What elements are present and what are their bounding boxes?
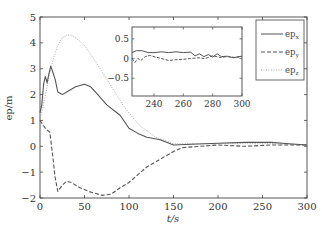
x-tick-label: 200 <box>208 201 227 212</box>
y-tick-label: −2 <box>21 193 36 204</box>
y-tick-label: 3 <box>30 63 36 74</box>
inset-y-tick-label: 0.5 <box>115 34 130 44</box>
inset-x-tick-label: 260 <box>175 99 192 109</box>
y-tick-label: 5 <box>30 12 36 23</box>
x-tick-label: 100 <box>119 201 138 212</box>
x-tick-label: 250 <box>253 201 272 212</box>
inset-axes-frame <box>132 27 242 96</box>
inset-y-tick-label: 0 <box>123 54 129 64</box>
y-tick-label: 0 <box>30 141 36 152</box>
y-tick-label: 4 <box>30 37 36 48</box>
inset-x-tick-label: 280 <box>204 99 221 109</box>
x-tick-label: 300 <box>297 201 316 212</box>
y-axis-label: ep/m <box>3 95 14 121</box>
x-tick-label: 50 <box>78 201 91 212</box>
x-tick-label: 0 <box>37 201 43 212</box>
line-chart: 050100150200250300−2−1012345 24026028030… <box>0 0 322 236</box>
inset-y-tick-label: −0.5 <box>107 73 129 83</box>
y-tick-label: 1 <box>30 115 36 126</box>
inset-x-tick-label: 300 <box>233 99 250 109</box>
inset-x-tick-label: 240 <box>145 99 162 109</box>
y-tick-label: 2 <box>30 89 36 100</box>
x-axis-label: t/s <box>167 213 180 224</box>
legend: epx epy epz <box>256 20 304 80</box>
y-tick-label: −1 <box>21 167 36 178</box>
x-tick-label: 150 <box>164 201 183 212</box>
